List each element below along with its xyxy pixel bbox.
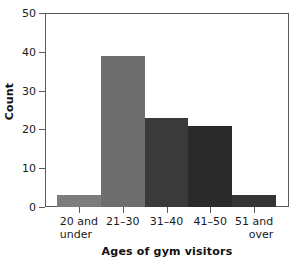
y-tick-label: 10 — [6, 163, 36, 174]
x-tick-label: 41–50 — [194, 215, 228, 228]
histogram-chart: Count 01020304050 20 andunder21–3031–404… — [0, 0, 300, 262]
bar — [101, 56, 145, 207]
x-tick-mark — [79, 207, 80, 213]
y-tick-label: 0 — [6, 202, 36, 213]
x-tick-label-line: 31–40 — [150, 215, 184, 228]
x-tick-label: 21–30 — [106, 215, 140, 228]
bar — [145, 118, 189, 207]
x-tick-mark — [254, 207, 255, 213]
x-tick-label-line: 41–50 — [194, 215, 228, 228]
y-tick-mark — [39, 207, 45, 208]
x-tick-mark — [210, 207, 211, 213]
y-axis-tick-labels: 01020304050 — [6, 13, 36, 207]
bar — [188, 126, 232, 207]
x-tick-label-line: 51 and — [235, 215, 273, 228]
x-axis-title: Ages of gym visitors — [45, 245, 289, 258]
x-tick-mark — [123, 207, 124, 213]
x-tick-label-line: over — [235, 228, 273, 241]
x-tick-label-line: under — [60, 228, 98, 241]
x-tick-label-line: 20 and — [60, 215, 98, 228]
bars-container — [45, 13, 289, 207]
x-tick-mark — [167, 207, 168, 213]
x-tick-label: 51 andover — [235, 215, 273, 241]
y-tick-label: 50 — [6, 8, 36, 19]
y-tick-label: 40 — [6, 46, 36, 57]
bar — [57, 195, 101, 207]
bar — [232, 195, 276, 207]
x-tick-label: 20 andunder — [60, 215, 98, 241]
y-tick-label: 20 — [6, 124, 36, 135]
x-tick-label-line: 21–30 — [106, 215, 140, 228]
x-axis-tick-labels: 20 andunder21–3031–4041–5051 andover — [45, 215, 289, 249]
y-tick-label: 30 — [6, 85, 36, 96]
x-tick-label: 31–40 — [150, 215, 184, 228]
